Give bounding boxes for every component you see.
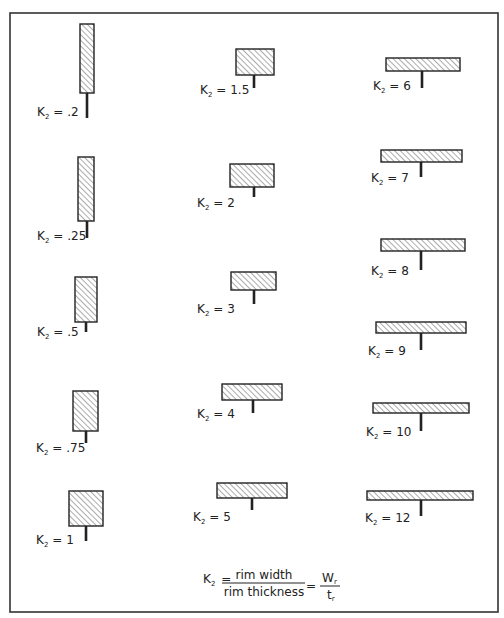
rim-cross-section bbox=[217, 483, 287, 498]
formula-rhs-num-sub: r bbox=[334, 578, 337, 586]
k2-label: K2= 8 bbox=[371, 264, 409, 280]
rim-section: K2= 3 bbox=[197, 272, 276, 318]
rim-section: K2= .5 bbox=[37, 277, 97, 341]
formula-lhs-sub: 2 bbox=[211, 580, 215, 588]
rim-cross-section bbox=[230, 164, 274, 187]
rim-cross-section bbox=[367, 491, 473, 500]
k2-label: K2= .2 bbox=[37, 105, 79, 121]
rim-cross-section bbox=[386, 58, 460, 71]
k2-formula: K2= rim width rim thickness = Wr tr bbox=[203, 568, 340, 603]
k2-label: K2= 5 bbox=[193, 510, 231, 526]
formula-rhs-den-sub: r bbox=[332, 595, 335, 603]
k2-label: K2= 4 bbox=[197, 407, 235, 423]
rim-cross-section bbox=[222, 384, 282, 400]
rim-cross-section bbox=[381, 239, 465, 251]
rim-cross-section bbox=[376, 322, 466, 333]
k2-label: K2= .25 bbox=[37, 229, 86, 245]
rim-section: K2= .75 bbox=[36, 391, 98, 457]
rim-section: K2= 8 bbox=[371, 239, 465, 280]
k2-label: K2= 9 bbox=[368, 344, 406, 360]
rim-cross-section bbox=[231, 272, 276, 290]
rim-section: K2= 1 bbox=[36, 491, 103, 549]
rim-cross-section bbox=[381, 150, 462, 162]
rim-cross-section bbox=[73, 391, 98, 431]
rim-cross-section bbox=[80, 24, 94, 93]
svg-text:Wr: Wr bbox=[322, 571, 337, 586]
k2-label: K2= 7 bbox=[371, 171, 409, 187]
rim-section: K2= .25 bbox=[37, 157, 94, 245]
k2-label: K2= .75 bbox=[36, 441, 85, 457]
rim-section: K2= 2 bbox=[197, 164, 274, 212]
sections-group: K2= .2K2= .25K2= .5K2= .75K2= 1K2= 1.5K2… bbox=[36, 24, 473, 549]
k2-label: K2= 1 bbox=[36, 533, 74, 549]
rim-section: K2= 7 bbox=[371, 150, 462, 187]
rim-section: K2= 12 bbox=[365, 491, 473, 527]
rim-cross-section bbox=[75, 277, 97, 322]
k2-label: K2= 10 bbox=[366, 425, 411, 441]
formula-denominator: rim thickness bbox=[224, 585, 304, 599]
rim-cross-section bbox=[236, 49, 274, 75]
formula-equals-1: = bbox=[221, 572, 231, 586]
rim-section-diagram: K2= .2K2= .25K2= .5K2= .75K2= 1K2= 1.5K2… bbox=[0, 0, 504, 618]
rim-cross-section bbox=[373, 403, 469, 413]
rim-section: K2= 10 bbox=[366, 403, 469, 441]
k2-label: K2= 2 bbox=[197, 196, 235, 212]
rim-section: K2= 4 bbox=[197, 384, 282, 423]
k2-label: K2= .5 bbox=[37, 325, 79, 341]
k2-label: K2= 12 bbox=[365, 511, 410, 527]
k2-label: K2= 6 bbox=[373, 79, 411, 95]
k2-label: K2= 3 bbox=[197, 302, 235, 318]
svg-text:tr: tr bbox=[327, 588, 335, 603]
rim-section: K2= 5 bbox=[193, 483, 287, 526]
rim-section: K2= 9 bbox=[368, 322, 466, 360]
rim-section: K2= .2 bbox=[37, 24, 94, 121]
rim-section: K2= 1.5 bbox=[200, 49, 274, 99]
rim-cross-section bbox=[69, 491, 103, 526]
rim-cross-section bbox=[78, 157, 94, 221]
formula-rhs-num: W bbox=[322, 571, 334, 585]
rim-section: K2= 6 bbox=[373, 58, 460, 95]
formula-equals-2: = bbox=[306, 579, 316, 593]
formula-numerator: rim width bbox=[236, 568, 293, 582]
k2-label: K2= 1.5 bbox=[200, 83, 249, 99]
